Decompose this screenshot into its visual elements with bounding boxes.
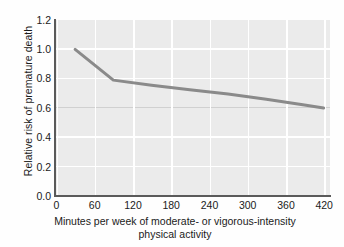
data-series-line <box>56 20 330 196</box>
x-axis-title-line2: physical activity <box>20 228 330 241</box>
y-tick-label: 0.4 <box>20 132 51 142</box>
x-tick-label: 360 <box>266 199 306 211</box>
x-tick-label: 420 <box>304 199 344 211</box>
y-tick-label: 0.6 <box>20 103 51 113</box>
x-axis-title-line1: Minutes per week of moderate- or vigorou… <box>20 215 330 228</box>
x-tick-label: 60 <box>75 199 115 211</box>
x-axis-tick-labels: 0 60 120 180 240 300 360 420 <box>0 199 344 213</box>
x-tick-label: 0 <box>37 199 77 211</box>
y-tick-label: 0.8 <box>20 73 51 83</box>
x-tick-label: 240 <box>190 199 230 211</box>
y-axis-line <box>54 19 56 197</box>
y-tick-label: 1.0 <box>20 44 51 54</box>
x-axis-title: Minutes per week of moderate- or vigorou… <box>20 215 330 241</box>
x-tick-label: 120 <box>113 199 153 211</box>
y-tick-label: 0.2 <box>20 162 51 172</box>
plot-area <box>56 20 330 196</box>
x-tick-label: 300 <box>228 199 268 211</box>
chart-figure: Relative risk of premature death 1.2 1.0… <box>0 0 344 247</box>
x-tick-label: 180 <box>151 199 191 211</box>
y-tick-label: 1.2 <box>20 15 51 25</box>
x-axis-line <box>54 195 331 197</box>
